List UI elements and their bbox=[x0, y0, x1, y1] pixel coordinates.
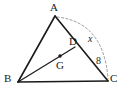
point-label-a: A bbox=[50, 2, 58, 13]
point-label-d: D bbox=[69, 36, 77, 47]
dashed-arc-a-to-c bbox=[57, 17, 108, 79]
segment-ac bbox=[55, 16, 108, 81]
point-label-b: B bbox=[4, 73, 11, 84]
point-label-c: C bbox=[110, 73, 117, 84]
measure-label-8: 8 bbox=[96, 56, 101, 66]
point-marker-g bbox=[58, 54, 61, 57]
segment-ab bbox=[18, 16, 55, 82]
geometry-figure: A B C D G x 8 bbox=[0, 0, 124, 95]
segment-bd-cevian bbox=[18, 47, 75, 82]
segment-bc bbox=[18, 81, 108, 82]
measure-label-x: x bbox=[88, 34, 92, 44]
diagram-canvas bbox=[0, 0, 124, 95]
point-label-g: G bbox=[56, 60, 64, 71]
